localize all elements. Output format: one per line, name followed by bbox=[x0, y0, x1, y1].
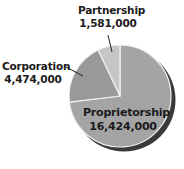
proprietorship-label: Proprietorship 16,424,000 bbox=[83, 106, 163, 133]
proprietorship-name: Proprietorship bbox=[83, 106, 163, 120]
partnership-name: Partnership bbox=[78, 4, 138, 17]
partnership-value: 1,581,000 bbox=[78, 17, 138, 30]
proprietorship-value: 16,424,000 bbox=[83, 120, 163, 134]
corporation-name: Corporation bbox=[2, 60, 64, 73]
corporation-value: 4,474,000 bbox=[2, 73, 64, 86]
partnership-label: Partnership 1,581,000 bbox=[78, 4, 138, 29]
corporation-label: Corporation 4,474,000 bbox=[2, 60, 64, 85]
